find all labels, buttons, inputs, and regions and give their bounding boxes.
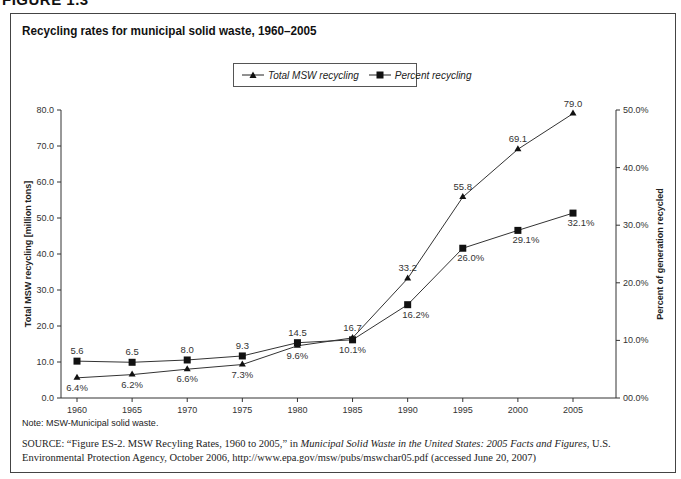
square-marker-icon [184, 356, 191, 363]
square-marker-icon [570, 210, 577, 217]
y-tick-label: 30.0 [36, 285, 54, 295]
data-label: 6.5 [126, 346, 139, 357]
data-label: 6.2% [121, 379, 143, 390]
data-label: 16.7 [343, 322, 362, 333]
y-tick-label: 20.0 [36, 321, 54, 331]
data-label: 6.6% [176, 373, 198, 384]
x-tick-label: 1960 [67, 405, 87, 415]
y2-axis-title: Percent of generation recycled [655, 188, 665, 320]
square-marker-icon [459, 245, 466, 252]
y2-tick-label: 40.0% [623, 163, 649, 173]
data-label: 33.2 [398, 262, 417, 273]
y-tick-label: 10.0 [36, 357, 54, 367]
x-tick-label: 1985 [343, 405, 363, 415]
data-label: 8.0 [181, 344, 194, 355]
x-tick-label: 1965 [122, 405, 142, 415]
triangle-marker-icon [74, 374, 81, 380]
y2-tick-label: 50.0% [623, 105, 649, 115]
square-marker-icon [294, 339, 301, 346]
x-tick-label: 2000 [508, 405, 528, 415]
triangle-marker-icon [459, 193, 466, 199]
data-label: 10.1% [339, 344, 366, 355]
square-marker-icon [239, 352, 246, 359]
y2-tick-label: 10.0% [623, 335, 649, 345]
series-line-percent [77, 213, 573, 362]
y-tick-label: 70.0 [36, 141, 54, 151]
y2-tick-label: 30.0% [623, 220, 649, 230]
y-axis-title: Total MSW recycling [million tons] [23, 181, 33, 327]
square-marker-icon [129, 359, 136, 366]
data-label: 14.5 [288, 327, 307, 338]
data-label: 5.6 [70, 345, 83, 356]
data-label: 9.6% [287, 350, 309, 361]
data-label: 9.3 [236, 340, 249, 351]
y-tick-label: 60.0 [36, 177, 54, 187]
square-marker-icon [404, 301, 411, 308]
data-label: 26.0% [457, 252, 484, 263]
triangle-marker-icon [570, 110, 577, 116]
x-tick-label: 1995 [453, 405, 473, 415]
data-label: 7.3% [232, 369, 254, 380]
square-marker-icon [514, 227, 521, 234]
data-label: 16.2% [402, 309, 429, 320]
y2-tick-label: 00.0% [623, 393, 649, 403]
source-citation: SOURCE: “Figure ES-2. MSW Recyling Rates… [22, 437, 662, 465]
data-label: 79.0 [564, 98, 583, 109]
series-line-total [77, 114, 573, 378]
x-tick-label: 2005 [563, 405, 583, 415]
y-tick-label: 0.0 [41, 393, 54, 403]
y-tick-label: 40.0 [36, 249, 54, 259]
y-tick-label: 80.0 [36, 105, 54, 115]
x-tick-label: 1990 [398, 405, 418, 415]
square-marker-icon [74, 358, 81, 365]
note-text: Note: MSW-Municipal solid waste. [22, 418, 158, 428]
y2-tick-label: 20.0% [623, 278, 649, 288]
x-tick-label: 1975 [232, 405, 252, 415]
triangle-marker-icon [129, 371, 136, 377]
data-label: 32.1% [568, 217, 595, 228]
y-tick-label: 50.0 [36, 213, 54, 223]
data-label: 29.1% [512, 234, 539, 245]
data-label: 55.8 [454, 181, 473, 192]
x-tick-label: 1970 [177, 405, 197, 415]
square-marker-icon [349, 336, 356, 343]
data-label: 6.4% [66, 382, 88, 393]
line-chart: 0.010.020.030.040.050.060.070.080.000.0%… [0, 0, 681, 479]
data-label: 69.1 [509, 133, 528, 144]
triangle-marker-icon [184, 365, 191, 371]
x-tick-label: 1980 [287, 405, 307, 415]
